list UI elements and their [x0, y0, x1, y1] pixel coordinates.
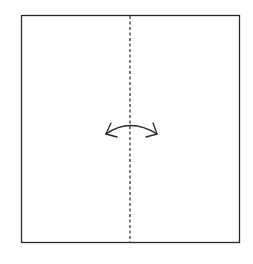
origami-diagram: [0, 0, 253, 264]
diagram-canvas: [0, 0, 253, 264]
